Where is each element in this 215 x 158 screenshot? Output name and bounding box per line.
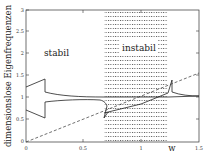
x-tick-label: 1: [139, 145, 142, 151]
y-tick-label: 0.5: [16, 116, 24, 122]
stabil-label: stabil: [44, 48, 69, 58]
x-tick-label: 1.5: [195, 145, 203, 151]
x-axis-title: w: [168, 143, 176, 153]
y-axis-title: dimensionslose Eigenfrequenzen: [3, 4, 13, 147]
instabil-label: instabil: [122, 43, 156, 53]
x-tick-label: 0: [24, 145, 27, 151]
instabil-region: [104, 11, 168, 141]
x-tick-label: 0.5: [79, 145, 87, 151]
y-tick-label: 1.5: [16, 72, 24, 78]
y-tick-label: 2.5: [16, 28, 24, 34]
y-tick-label: 0: [21, 138, 24, 144]
lower-branch-curve: [26, 100, 108, 118]
y-tick-label: 2: [21, 50, 24, 56]
y-tick-label: 1: [21, 94, 24, 100]
y-tick-label: 3: [21, 7, 24, 13]
eigenfrequency-chart: 3 2.5 2 1.5 1 0.5 0 0 0.5 1 1.5 w dimens…: [0, 0, 215, 158]
